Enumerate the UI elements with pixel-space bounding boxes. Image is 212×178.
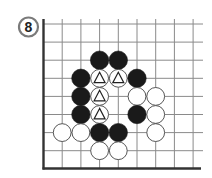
stones-layer bbox=[53, 51, 164, 160]
white-stone bbox=[109, 142, 127, 160]
black-stone-icon bbox=[72, 87, 90, 105]
black-stone-icon bbox=[109, 51, 127, 69]
black-stone-icon bbox=[90, 123, 108, 141]
black-stone-icon bbox=[90, 51, 108, 69]
white-stone bbox=[147, 106, 165, 124]
white-stone-icon bbox=[72, 124, 90, 142]
white-stone-icon bbox=[91, 142, 109, 160]
white-stone bbox=[53, 124, 71, 142]
black-stone bbox=[72, 87, 90, 105]
white-stone-triangle bbox=[91, 88, 109, 106]
diagram-number: 8 bbox=[25, 19, 33, 35]
black-stone bbox=[109, 51, 127, 69]
white-stone-icon bbox=[109, 142, 127, 160]
white-stone-triangle bbox=[109, 69, 127, 87]
white-stone-icon bbox=[147, 124, 165, 142]
white-stone bbox=[91, 142, 109, 160]
white-stone bbox=[147, 88, 165, 106]
black-stone bbox=[109, 123, 127, 141]
go-board-diagram: 8 bbox=[0, 0, 212, 178]
white-stone-icon bbox=[147, 88, 165, 106]
white-stone-triangle bbox=[91, 69, 109, 87]
black-stone bbox=[128, 105, 146, 123]
diagram-number-label: 8 bbox=[19, 18, 38, 37]
black-stone bbox=[128, 69, 146, 87]
white-stone-icon bbox=[147, 106, 165, 124]
black-stone-icon bbox=[72, 105, 90, 123]
black-stone bbox=[90, 51, 108, 69]
black-stone-icon bbox=[128, 105, 146, 123]
black-stone bbox=[72, 105, 90, 123]
white-stone bbox=[128, 88, 146, 106]
white-stone-icon bbox=[53, 124, 71, 142]
black-stone bbox=[90, 123, 108, 141]
white-stone bbox=[72, 124, 90, 142]
white-stone bbox=[147, 124, 165, 142]
black-stone-icon bbox=[128, 69, 146, 87]
black-stone-icon bbox=[109, 123, 127, 141]
black-stone-icon bbox=[72, 69, 90, 87]
black-stone bbox=[72, 69, 90, 87]
white-stone-icon bbox=[128, 88, 146, 106]
white-stone-triangle bbox=[91, 106, 109, 124]
